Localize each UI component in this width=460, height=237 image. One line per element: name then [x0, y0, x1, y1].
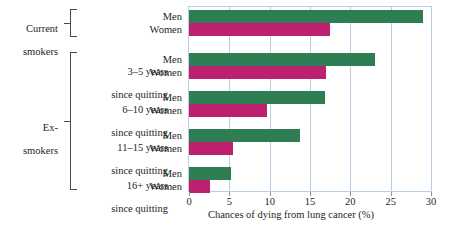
bar-men-group3 [189, 129, 300, 142]
x-tick-label-30: 30 [416, 196, 446, 207]
bracket-label-line2: smokers [0, 145, 58, 157]
series-label-men-group2: Men [122, 92, 182, 104]
series-label-women-group3: Women [122, 143, 182, 155]
x-tick-label-25: 25 [376, 196, 406, 207]
bar-women-group4 [189, 180, 210, 193]
x-tick-label-10: 10 [255, 196, 285, 207]
series-label-men-group1: Men [122, 54, 182, 66]
bracket-arm-top [70, 52, 77, 53]
x-tick-label-5: 5 [214, 196, 244, 207]
x-tick-label-20: 20 [335, 196, 365, 207]
bar-women-group1 [189, 66, 326, 79]
gridline-25 [391, 7, 392, 191]
bar-women-group3 [189, 142, 233, 155]
series-label-women-group0: Women [122, 24, 182, 36]
bar-women-group2 [189, 104, 267, 117]
bracket-ex-smokers [64, 52, 77, 190]
bracket-arm-bottom [70, 189, 77, 190]
bar-women-group0 [189, 23, 330, 36]
x-tick-label-0: 0 [174, 196, 204, 207]
bracket-label-current-smokers: Current smokers [0, 11, 58, 69]
bracket-tick [64, 121, 71, 122]
series-label-men-group0: Men [122, 11, 182, 23]
bar-men-group4 [189, 167, 231, 180]
lung-cancer-bar-chart: Current smokers Ex- smokers 3–5 years si… [0, 0, 460, 237]
bracket-label-line1: Current [0, 23, 58, 35]
series-label-women-group2: Women [122, 105, 182, 117]
bracket-current-smokers [64, 9, 77, 37]
bar-men-group1 [189, 53, 375, 66]
bar-men-group2 [189, 91, 325, 104]
series-label-women-group4: Women [122, 181, 182, 193]
series-label-men-group3: Men [122, 130, 182, 142]
x-axis-title: Chances of dying from lung cancer (%) [0, 209, 460, 220]
bracket-label-line2: smokers [0, 46, 58, 58]
bracket-label-ex-smokers: Ex- smokers [0, 110, 58, 168]
series-label-women-group1: Women [122, 67, 182, 79]
bracket-arm-bottom [70, 36, 77, 37]
gridline-20 [350, 7, 351, 191]
bar-men-group0 [189, 10, 423, 23]
bracket-arm-top [70, 9, 77, 10]
bracket-tick [64, 23, 71, 24]
x-axis-title-text: Chances of dying from lung cancer (%) [208, 209, 374, 220]
bracket-label-line1: Ex- [0, 122, 58, 134]
x-tick-label-15: 15 [295, 196, 325, 207]
series-label-men-group4: Men [122, 168, 182, 180]
plot-area [188, 6, 432, 192]
